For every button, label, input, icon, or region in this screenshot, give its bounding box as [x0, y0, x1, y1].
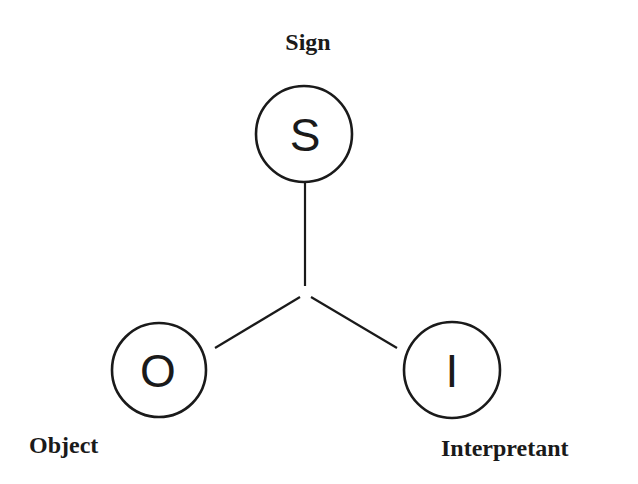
node-label-interpretant: Interpretant [441, 435, 569, 461]
node-letter-interpretant: I [446, 345, 459, 397]
edge-center-to-object [215, 297, 300, 348]
triadic-sign-diagram: Sign S O Object I Interpretant [0, 0, 638, 484]
node-interpretant: I Interpretant [404, 322, 569, 461]
node-letter-sign: S [290, 109, 321, 161]
edge-center-to-interpretant [311, 297, 397, 348]
node-label-sign: Sign [285, 29, 330, 55]
node-label-object: Object [29, 432, 98, 458]
node-sign: Sign S [256, 29, 352, 182]
node-letter-object: O [140, 345, 176, 397]
node-object: O Object [29, 323, 206, 458]
